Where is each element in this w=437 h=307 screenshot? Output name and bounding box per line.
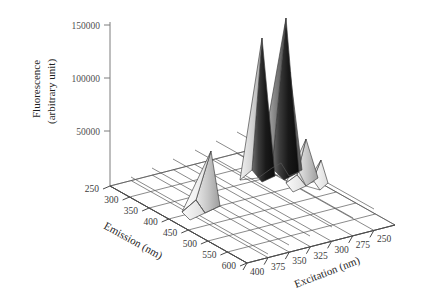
eem-surface-plot: 150000 100000 50000 Fluorescence (arbitr… (0, 0, 437, 307)
y-tick-label-400: 400 (250, 267, 265, 277)
x-tick-label-300: 300 (104, 195, 119, 205)
x-tick-label-400: 400 (143, 217, 158, 227)
y-tick-label-300: 300 (335, 245, 350, 255)
z-axis-title-line2: (arbitrary unit) (45, 59, 58, 124)
z-axis-title-line1: Fluorescence (30, 60, 42, 118)
y-tick-label-350: 350 (292, 256, 307, 266)
x-tick-300 (123, 197, 130, 200)
y-tick-label-275: 275 (356, 240, 371, 250)
x-tick-label-250: 250 (85, 184, 100, 194)
x-tick-500 (201, 241, 208, 244)
x-tick-550 (220, 252, 227, 255)
y-tick-label-375: 375 (271, 262, 286, 272)
x-tick-label-350: 350 (124, 206, 139, 216)
z-tick-label-100000: 100000 (72, 74, 101, 84)
x-tick-label-500: 500 (183, 239, 198, 249)
z-axis-group: 150000 100000 50000 (72, 21, 111, 187)
x-tick-400 (162, 219, 169, 222)
z-axis-title-group: Fluorescence (arbitrary unit) (30, 59, 58, 124)
x-axis-line (110, 186, 247, 263)
z-tick-label-50000: 50000 (76, 127, 100, 137)
x-tick-250 (103, 186, 110, 189)
x-tick-450 (181, 230, 188, 233)
y-tick-label-250: 250 (377, 234, 392, 244)
x-tick-label-450: 450 (163, 228, 178, 238)
y-axis-group: 400 375 350 325 300 275 250 Excitation (… (243, 225, 395, 291)
z-tick-label-150000: 150000 (72, 21, 101, 31)
x-tick-350 (142, 208, 149, 211)
x-tick-label-550: 550 (202, 250, 217, 260)
x-tick-label-600: 600 (222, 261, 237, 271)
y-tick-label-325: 325 (313, 251, 328, 261)
figure-root: 150000 100000 50000 Fluorescence (arbitr… (0, 0, 437, 307)
